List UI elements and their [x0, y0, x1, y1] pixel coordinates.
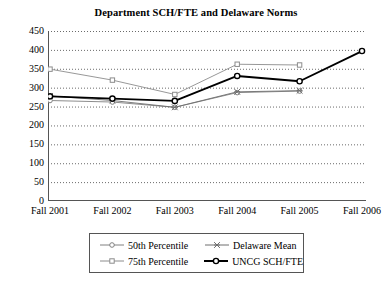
data-point-marker — [214, 242, 220, 248]
legend-item-uncg-sch-fte[interactable]: UNCG SCH/FTE — [200, 253, 303, 269]
y-tick-label: 150 — [0, 139, 44, 149]
x-tick-label: Fall 2006 — [330, 205, 392, 217]
legend-item-delaware-mean[interactable]: Delaware Mean — [201, 237, 303, 253]
legend-row: 50th Percentile Delaware Mean — [90, 237, 303, 253]
data-point-marker — [235, 73, 240, 78]
chart-legend: 50th Percentile Delaware Mean 75th Perce… — [89, 233, 304, 273]
data-point-marker — [297, 79, 302, 84]
legend-label: 75th Percentile — [128, 256, 188, 267]
legend-label: Delaware Mean — [233, 240, 297, 251]
series-uncg-sch-fte — [48, 48, 365, 103]
data-point-marker — [48, 67, 52, 71]
data-point-marker — [235, 62, 239, 66]
data-point-marker — [214, 258, 219, 263]
x-tick-label: Fall 2002 — [80, 205, 144, 217]
x-tick-label: Fall 2003 — [143, 205, 207, 217]
y-tick-label: 250 — [0, 102, 44, 112]
data-point-marker — [359, 48, 364, 53]
legend-marker-cross-x-icon — [204, 239, 230, 251]
y-tick-label: 350 — [0, 64, 44, 74]
y-tick-label: 100 — [0, 158, 44, 168]
legend-marker-bold-circle-icon — [203, 255, 229, 267]
y-axis: 450400350300250200150100500 — [0, 31, 44, 201]
legend-marker-open-square-icon — [99, 255, 125, 267]
data-point-marker — [110, 243, 115, 248]
y-tick-label: 200 — [0, 120, 44, 130]
series-line — [50, 51, 362, 101]
data-point-marker — [110, 96, 115, 101]
data-point-marker — [297, 63, 301, 67]
x-tick-label: Fall 2001 — [18, 205, 82, 217]
legend-item-50th-percentile[interactable]: 50th Percentile — [90, 237, 201, 253]
x-axis: Fall 2001Fall 2002Fall 2003Fall 2004Fall… — [48, 205, 366, 219]
x-tick-label: Fall 2005 — [268, 205, 332, 217]
chart-canvas — [48, 31, 366, 201]
legend-marker-open-circle-icon — [99, 239, 125, 251]
x-tick-label: Fall 2004 — [205, 205, 269, 217]
legend-label: 50th Percentile — [128, 240, 188, 251]
legend-row: 75th Percentile UNCG SCH/FTE — [90, 253, 303, 269]
y-tick-label: 50 — [0, 177, 44, 187]
data-point-marker — [110, 259, 114, 263]
y-tick-label: 400 — [0, 45, 44, 55]
y-tick-label: 300 — [0, 83, 44, 93]
data-point-marker — [173, 92, 177, 96]
data-point-marker — [172, 98, 177, 103]
plot-area — [48, 31, 366, 201]
legend-label: UNCG SCH/FTE — [232, 256, 303, 267]
chart-title: Department SCH/FTE and Delaware Norms — [0, 7, 392, 18]
data-point-marker — [48, 94, 53, 99]
legend-item-75th-percentile[interactable]: 75th Percentile — [90, 253, 200, 269]
y-tick-label: 450 — [0, 26, 44, 36]
data-point-marker — [110, 78, 114, 82]
